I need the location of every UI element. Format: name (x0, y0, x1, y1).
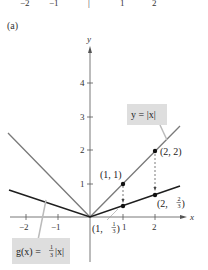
svg-text:3: 3 (113, 228, 116, 234)
y-tick-label: 4 (80, 78, 85, 88)
f-label: y = |x| (131, 109, 156, 120)
svg-text:): ) (117, 223, 120, 235)
f-label-pointer (160, 125, 167, 140)
point-1-third (121, 204, 125, 208)
y-tick-label: 3 (80, 112, 85, 122)
svg-text:1: 1 (50, 244, 53, 250)
g-label: g(x) = 1 3 |x| (16, 244, 64, 258)
svg-text:1: 1 (113, 221, 116, 227)
panel-label: (a) (7, 20, 18, 32)
g-label-pointer (38, 200, 46, 240)
point-1-1 (121, 182, 125, 186)
point-2-twothirds (153, 193, 157, 197)
svg-text:g(x) =: g(x) = (16, 246, 41, 258)
y-tick-label: 1 (80, 179, 85, 189)
y-axis-label: y (86, 34, 91, 44)
svg-text:3: 3 (50, 252, 53, 258)
y-axis-arrow-icon (88, 46, 92, 53)
top-tick: 1 (120, 0, 125, 8)
x-axis-label: x (189, 212, 194, 222)
point-label: (2, 2) (160, 146, 182, 158)
svg-text:|x|: |x| (55, 246, 64, 257)
svg-text:3: 3 (178, 203, 181, 209)
svg-text:2: 2 (178, 196, 181, 202)
svg-text:(2,: (2, (157, 198, 168, 210)
graph-figure: −2 −1 | 1 2 (a) x y −2 −1 1 2 1 2 3 4 (0, 0, 208, 270)
point-label-2-twothirds: (2, 2 3 ) (157, 196, 185, 210)
f-line (8, 126, 180, 217)
top-tick: | (88, 0, 90, 8)
top-tick: −2 (20, 0, 30, 8)
x-tick-label: −2 (19, 222, 29, 232)
x-tick-label: 2 (152, 222, 157, 232)
top-tick: −1 (49, 0, 59, 8)
x-tick-label: −1 (51, 222, 61, 232)
point-2-2 (153, 149, 157, 153)
point-label-1-third: (1, 1 3 ) (92, 221, 120, 235)
top-strip: −2 −1 | 1 2 (20, 0, 157, 8)
down-arrow-icon (122, 199, 125, 203)
down-arrow-icon (154, 187, 157, 191)
x-tick-label: 1 (122, 222, 127, 232)
top-tick: 2 (152, 0, 157, 8)
svg-text:(1,: (1, (92, 223, 103, 235)
svg-text:): ) (182, 198, 185, 210)
x-axis-arrow-icon (180, 215, 187, 219)
y-tick-label: 2 (80, 145, 85, 155)
point-label: (1, 1) (100, 169, 122, 181)
